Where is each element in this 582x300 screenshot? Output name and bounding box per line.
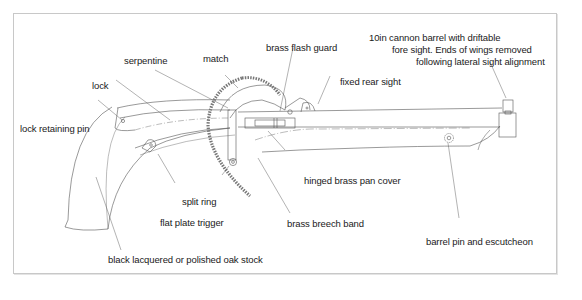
label-serpentine: serpentine — [124, 55, 167, 66]
label-fixed-rear-sight: fixed rear sight — [340, 76, 401, 87]
split-ring-icon — [229, 158, 236, 165]
lock-plate-inner — [120, 110, 230, 118]
label-barrel-note-line2: fore sight. Ends of wings removed — [392, 44, 532, 55]
barrel-pin-icon — [445, 134, 454, 143]
fore-sight — [503, 100, 513, 112]
label-barrel-note-line1: 10in cannon barrel with driftable — [369, 32, 500, 43]
pan-cover — [245, 118, 295, 128]
muzzle-band — [499, 113, 516, 137]
label-lock-retaining-pin: lock retaining pin — [20, 123, 90, 134]
stock-lower-curve — [135, 128, 230, 148]
stock-outline — [65, 107, 230, 230]
label-barrel-pin-and-escutcheon: barrel pin and escutcheon — [426, 236, 533, 247]
label-brass-flash-guard: brass flash guard — [266, 42, 337, 53]
barrel-top — [238, 108, 502, 112]
lock-plate-outer — [117, 100, 230, 108]
stock-inner-curve — [106, 117, 125, 229]
label-hinged-brass-pan-cover: hinged brass pan cover — [304, 175, 401, 186]
serpentine-arm — [220, 85, 286, 118]
label-split-ring: split ring — [182, 196, 216, 207]
lock-plate-inner2 — [135, 118, 230, 130]
lock-plate-end — [115, 108, 135, 131]
label-flat-plate-trigger: flat plate trigger — [160, 217, 224, 228]
label-lock: lock — [92, 80, 109, 91]
label-match: match — [203, 53, 228, 64]
label-brass-breech-band: brass breech band — [287, 218, 364, 229]
label-barrel-note-line3: following lateral sight alignment — [416, 56, 545, 67]
stock-lower-curve2 — [140, 135, 235, 155]
label-stock: black lacquered or polished oak stock — [108, 254, 263, 265]
